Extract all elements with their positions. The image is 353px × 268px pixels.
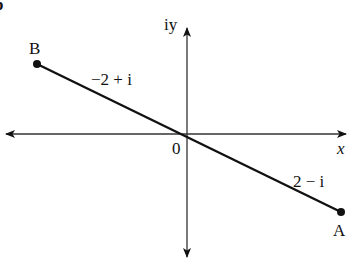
segment-label-A: 2 − i (293, 173, 324, 190)
argand-diagram (0, 0, 353, 268)
point-B (33, 60, 41, 68)
part-label: b (0, 0, 3, 13)
origin-label: 0 (172, 140, 181, 157)
point-A-label: A (333, 222, 345, 239)
x-axis-label: x (337, 140, 345, 157)
point-B-label: B (29, 40, 40, 57)
segment-label-B: −2 + i (91, 71, 132, 88)
point-A (337, 208, 345, 216)
y-axis-label: iy (164, 16, 177, 33)
